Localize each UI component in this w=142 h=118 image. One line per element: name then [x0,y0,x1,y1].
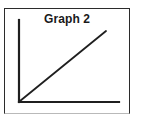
graph-card: Graph 2 [4,8,130,114]
plot-area [5,9,131,115]
data-line-series-1 [20,31,106,101]
figure-root: Graph 2 [0,0,142,118]
